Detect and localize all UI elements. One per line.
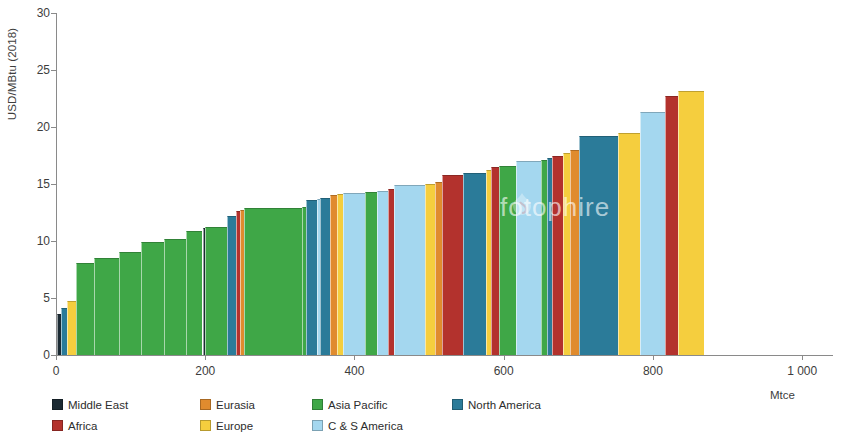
legend-item-europe[interactable]: Europe: [200, 420, 312, 432]
bar-22: [343, 193, 365, 355]
legend-item-north-america[interactable]: North America: [452, 399, 612, 411]
x-tickmark-800: [653, 355, 654, 360]
bar-24: [377, 191, 387, 355]
bar-17: [306, 200, 316, 355]
bar-series: [57, 13, 833, 355]
x-tick-label-600: 600: [494, 364, 514, 378]
x-tickmark-1000: [802, 355, 803, 360]
x-tickmark-200: [205, 355, 206, 360]
bar-6: [119, 252, 141, 355]
bar-38: [563, 153, 570, 355]
bar-43: [665, 96, 678, 355]
bar-39: [570, 150, 579, 355]
bar-42: [640, 112, 665, 355]
bar-34: [516, 161, 541, 355]
bar-15: [244, 208, 302, 355]
legend-swatch-icon: [52, 399, 63, 410]
legend-label: C & S America: [328, 420, 403, 432]
bar-32: [491, 167, 498, 355]
bar-33: [499, 166, 516, 355]
bar-12: [227, 216, 236, 355]
legend-item-africa[interactable]: Africa: [52, 420, 200, 432]
bar-3: [67, 301, 75, 355]
legend-swatch-icon: [52, 420, 63, 431]
x-axis-title: Mtce: [770, 389, 795, 401]
legend-label: Europe: [216, 420, 253, 432]
legend-item-eurasia[interactable]: Eurasia: [200, 399, 312, 411]
bar-9: [186, 231, 202, 355]
x-tick-label-400: 400: [344, 364, 364, 378]
bar-28: [435, 182, 442, 355]
x-tickmark-0: [56, 355, 57, 360]
legend-item-middle-east[interactable]: Middle East: [52, 399, 200, 411]
y-tick-label-10: 10: [26, 234, 50, 248]
legend-swatch-icon: [200, 399, 211, 410]
chart-legend: Middle EastEurasiaAsia PacificNorth Amer…: [52, 394, 652, 436]
y-axis-title-text: USD/MBtu (2018): [6, 28, 18, 120]
bar-8: [164, 239, 186, 355]
legend-label: North America: [468, 399, 541, 411]
legend-item-c-s-america[interactable]: C & S America: [312, 420, 452, 432]
bar-27: [425, 184, 435, 355]
x-tick-label-200: 200: [195, 364, 215, 378]
bar-7: [141, 242, 163, 355]
legend-label: Asia Pacific: [328, 399, 387, 411]
legend-label: Africa: [68, 420, 97, 432]
y-tick-label-25: 25: [26, 63, 50, 77]
x-axis-ticks: 02004006008001 000: [56, 355, 832, 381]
bar-19: [320, 198, 330, 355]
x-tickmark-600: [504, 355, 505, 360]
legend-swatch-icon: [312, 420, 323, 431]
x-tick-label-1000: 1 000: [787, 364, 817, 378]
bar-5: [94, 258, 119, 355]
bar-11: [205, 227, 227, 355]
bar-20: [330, 195, 337, 355]
bar-37: [552, 156, 563, 356]
bar-44: [678, 91, 704, 355]
legend-label: Eurasia: [216, 399, 255, 411]
y-tick-label-20: 20: [26, 120, 50, 134]
bar-30: [463, 173, 486, 355]
y-tick-label-0: 0: [26, 348, 50, 362]
plot-area: [56, 13, 833, 356]
x-tick-label-0: 0: [53, 364, 60, 378]
y-axis-ticks: 051015202530: [24, 13, 50, 355]
y-axis-title: USD/MBtu (2018): [2, 0, 22, 355]
y-tick-label-15: 15: [26, 177, 50, 191]
bar-41: [618, 133, 640, 355]
supply-cost-curve-chart: USD/MBtu (2018) 051015202530 fotophire 0…: [0, 0, 847, 436]
legend-swatch-icon: [200, 420, 211, 431]
x-tick-label-800: 800: [643, 364, 663, 378]
bar-40: [579, 136, 618, 355]
legend-swatch-icon: [452, 399, 463, 410]
legend-label: Middle East: [68, 399, 128, 411]
bar-29: [442, 175, 463, 355]
x-tickmark-400: [354, 355, 355, 360]
bar-26: [394, 185, 425, 355]
y-tick-label-30: 30: [26, 6, 50, 20]
bar-4: [76, 263, 94, 355]
legend-item-asia-pacific[interactable]: Asia Pacific: [312, 399, 452, 411]
bar-23: [365, 192, 377, 355]
y-tick-label-5: 5: [26, 291, 50, 305]
legend-swatch-icon: [312, 399, 323, 410]
